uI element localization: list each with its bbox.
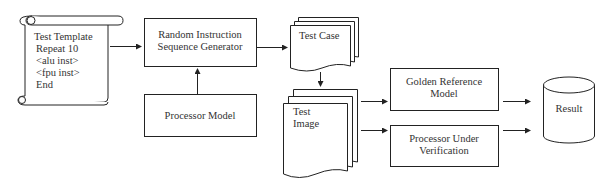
golden-reference-line2: Model [390, 88, 498, 100]
test-image-label: Test Image [293, 106, 319, 130]
puv-label: Processor Under Verification [390, 133, 498, 157]
test-template-text: Test Template Repeat 10 <alu inst> <fpu … [34, 31, 106, 91]
golden-reference-label: Golden Reference Model [390, 76, 498, 100]
generator-label: Random Instruction Sequence Generator [144, 29, 256, 53]
test-image-line2: Image [293, 118, 319, 130]
generator-label-line1: Random Instruction [144, 29, 256, 41]
test-image-stack [284, 90, 358, 178]
test-image-line1: Test [293, 106, 319, 118]
puv-line1: Processor Under [390, 133, 498, 145]
golden-reference-line1: Golden Reference [390, 76, 498, 88]
template-line: Repeat 10 [34, 43, 106, 55]
generator-label-line2: Sequence Generator [144, 41, 256, 53]
template-line: Test Template [34, 31, 106, 43]
test-case-label: Test Case [299, 30, 339, 42]
template-line: <alu inst> [34, 55, 106, 67]
puv-line2: Verification [390, 145, 498, 157]
template-line: <fpu inst> [34, 67, 106, 79]
test-case-stack [291, 18, 359, 72]
template-line: End [34, 79, 106, 91]
diagram-canvas [0, 0, 610, 183]
result-label: Result [543, 103, 595, 115]
processor-model-label: Processor Model [144, 110, 256, 122]
